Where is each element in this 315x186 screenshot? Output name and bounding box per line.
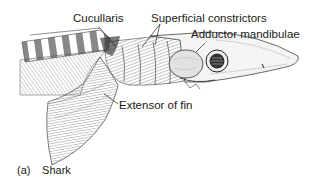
shark-anatomy-figure: Cucullaris Superficial constrictors Addu… [0,0,315,186]
caption-tag: (a) [17,164,39,177]
figure-caption: (a) Shark [17,164,71,177]
label-superficial-constrictors: Superficial constrictors [151,12,267,25]
label-adductor-mandibulae: Adductor mandibulae [191,28,300,41]
label-extensor-of-fin: Extensor of fin [119,99,193,112]
shark-eye [206,50,228,72]
caption-text: Shark [42,164,71,176]
adductor-mandibulae-muscle [169,50,203,78]
label-cucullaris: Cucullaris [73,12,124,25]
